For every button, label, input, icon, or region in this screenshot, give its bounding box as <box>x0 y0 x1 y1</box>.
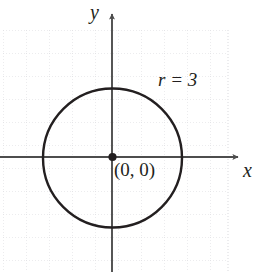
x-axis-label: x <box>243 160 252 180</box>
y-axis-label: y <box>90 2 99 22</box>
figure-canvas <box>0 0 265 272</box>
math-figure-circle: y x r = 3 (0, 0) <box>0 0 265 272</box>
grid-area <box>3 30 228 272</box>
origin-coordinate-label: (0, 0) <box>114 160 155 179</box>
radius-annotation-label: r = 3 <box>158 70 197 89</box>
